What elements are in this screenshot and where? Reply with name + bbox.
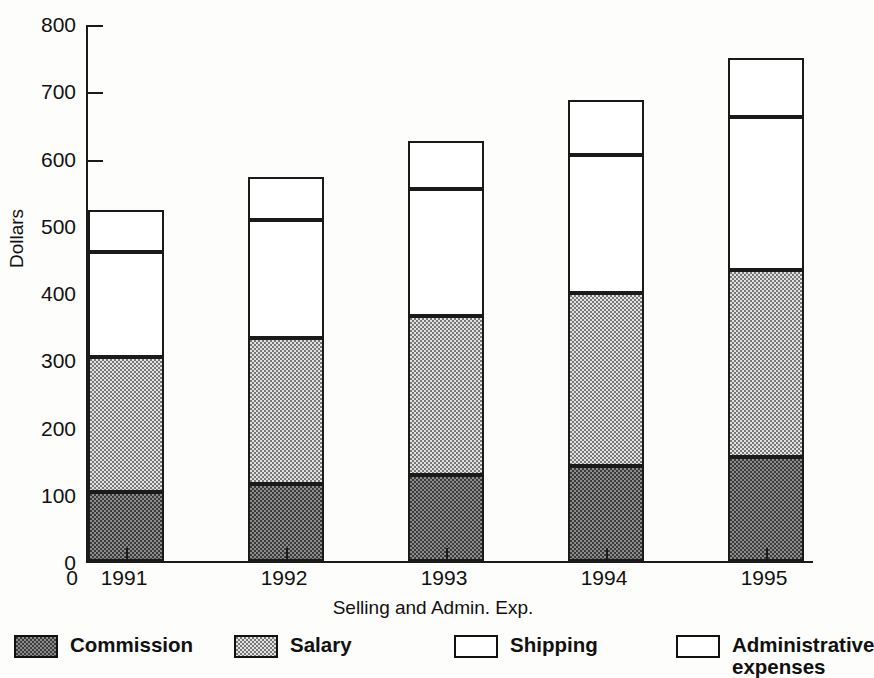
bar-1993[interactable] [408, 141, 484, 561]
bar-segment-shipping-1994[interactable] [568, 155, 644, 294]
bar-segment-administrative-expenses-1995[interactable] [728, 58, 804, 117]
y-axis-tick-label: 800 [41, 13, 76, 37]
shipping-swatch [454, 635, 498, 658]
x-axis-tick-label: 1994 [581, 566, 628, 590]
plot-area [86, 25, 813, 563]
administrative-expenses-swatch [676, 635, 720, 658]
y-axis-title: Dollars [6, 209, 28, 268]
x-axis-tick-label: 1993 [421, 566, 468, 590]
x-axis-tick-mark [446, 548, 448, 561]
bar-segment-salary-1994[interactable] [568, 293, 644, 465]
legend-item-commission[interactable]: Commission [14, 634, 193, 658]
bar-segment-commission-1994[interactable] [568, 466, 644, 561]
y-axis-tick-label: 300 [41, 349, 76, 373]
bar-segment-administrative-expenses-1993[interactable] [408, 141, 484, 189]
y-axis-tick-label: 200 [41, 417, 76, 441]
y-axis-tick-label: 100 [41, 484, 76, 508]
bar-segment-shipping-1991[interactable] [88, 252, 164, 358]
x-axis-tick-label: 1995 [741, 566, 788, 590]
x-axis-tick-mark [126, 548, 128, 561]
x-axis-tick-labels: 019911992199319941995 [0, 566, 866, 596]
legend-item-administrative-expenses[interactable]: Administrative expenses [676, 634, 874, 678]
bar-segment-salary-1993[interactable] [408, 316, 484, 475]
stacked-bar-chart: 0100200300400500600700800 Dollars 019911… [0, 0, 866, 600]
bar-1995[interactable] [728, 58, 804, 561]
salary-swatch [234, 635, 278, 658]
y-axis-tick-mark [87, 92, 103, 94]
bar-segment-administrative-expenses-1994[interactable] [568, 100, 644, 155]
x-axis-title: Selling and Admin. Exp. [0, 597, 866, 619]
bar-1994[interactable] [568, 100, 644, 561]
bar-1991[interactable] [88, 210, 164, 561]
bar-segment-administrative-expenses-1991[interactable] [88, 210, 164, 252]
legend-item-salary[interactable]: Salary [234, 634, 352, 658]
bar-segment-administrative-expenses-1992[interactable] [248, 177, 324, 220]
x-axis-tick-mark [286, 548, 288, 561]
y-axis-tick-mark [87, 25, 103, 27]
bar-segment-shipping-1993[interactable] [408, 189, 484, 316]
y-axis-tick-label: 400 [41, 282, 76, 306]
bar-segment-salary-1995[interactable] [728, 270, 804, 456]
y-axis-tick-mark [87, 160, 103, 162]
bar-segment-shipping-1995[interactable] [728, 117, 804, 270]
y-axis-tick-label: 600 [41, 148, 76, 172]
legend-label: Shipping [510, 634, 598, 656]
legend-label: Administrative expenses [732, 634, 874, 678]
chart-legend: CommissionSalaryShippingAdministrative e… [0, 628, 866, 675]
y-axis-tick-label: 500 [41, 215, 76, 239]
legend-item-shipping[interactable]: Shipping [454, 634, 598, 658]
x-axis-tick-mark [606, 548, 608, 561]
x-axis-tick-label: 0 [66, 566, 78, 590]
bar-segment-commission-1995[interactable] [728, 457, 804, 561]
bar-segment-salary-1991[interactable] [88, 357, 164, 492]
x-axis-tick-label: 1991 [101, 566, 148, 590]
bar-1992[interactable] [248, 177, 324, 561]
y-axis-tick-labels: 0100200300400500600700800 [0, 25, 84, 563]
bar-segment-salary-1992[interactable] [248, 338, 324, 483]
y-axis-tick-label: 700 [41, 80, 76, 104]
commission-swatch [14, 635, 58, 658]
bar-segment-shipping-1992[interactable] [248, 220, 324, 338]
legend-label: Commission [70, 634, 193, 656]
legend-label: Salary [290, 634, 352, 656]
x-axis-tick-mark [766, 548, 768, 561]
x-axis-tick-label: 1992 [261, 566, 308, 590]
